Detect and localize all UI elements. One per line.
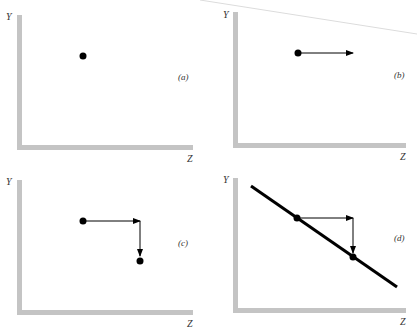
panel-label: (c): [178, 238, 188, 248]
sloped-line: [251, 186, 397, 287]
y-axis-label: Y: [6, 11, 13, 22]
x-axis-label: Z: [187, 318, 193, 329]
panel-label: (a): [178, 72, 189, 82]
panel-a: Y Z (a): [6, 11, 193, 164]
figure-canvas: Y Z (a) Y Z (b) Y Z (c) Y Z (d): [0, 0, 417, 334]
y-axis: [233, 12, 238, 148]
y-axis: [233, 178, 238, 313]
x-axis-label: Z: [400, 316, 406, 327]
panel-label: (b): [394, 70, 405, 80]
y-axis-label: Y: [6, 176, 13, 187]
x-axis-label: Z: [187, 153, 193, 164]
page-edge-line: [200, 0, 417, 34]
y-axis-label: Y: [223, 9, 230, 20]
end-point: [350, 254, 357, 261]
y-axis-label: Y: [223, 174, 230, 185]
point: [80, 53, 87, 60]
x-axis-label: Z: [400, 151, 406, 162]
panel-c: Y Z (c): [6, 176, 193, 329]
panel-d: Y Z (d): [223, 174, 406, 327]
panel-b: Y Z (b): [223, 9, 406, 162]
panel-label: (d): [394, 233, 405, 243]
end-point: [137, 258, 144, 265]
x-axis: [17, 145, 193, 150]
y-axis: [17, 15, 22, 150]
x-axis: [17, 310, 193, 315]
x-axis: [233, 143, 406, 148]
x-axis: [233, 308, 406, 313]
y-axis: [17, 180, 22, 315]
